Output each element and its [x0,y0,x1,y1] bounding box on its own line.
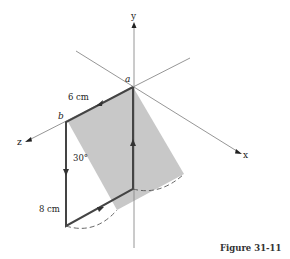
figure-diagram: y z x a b 6 cm 8 cm 30° Figure 31-11 [0,0,290,259]
figure-caption: Figure 31-11 [220,243,282,253]
arrow-left-edge-icon [63,169,69,176]
x-axis-label: x [243,150,248,160]
x-axis-arrow-icon [235,149,242,154]
arrow-top-edge-icon [96,100,103,106]
y-axis-arrow-icon [132,22,137,28]
top-edge-length-label: 6 cm [68,92,89,102]
arrow-bottom-edge-icon [97,207,104,212]
y-axis-label: y [130,11,137,21]
point-a-label: a [125,74,130,84]
z-axis-arrow-icon [25,137,32,142]
point-b-label: b [58,111,64,121]
shaded-rotated-plane [68,87,184,210]
z-axis-label: z [17,137,22,147]
rotation-angle-label: 30° [73,153,88,163]
left-edge-length-label: 8 cm [39,204,60,214]
